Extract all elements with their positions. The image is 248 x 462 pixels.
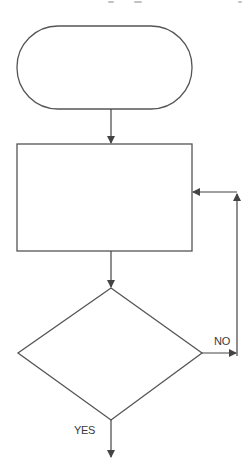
process-node xyxy=(17,144,192,251)
no-branch-label: NO xyxy=(214,335,230,347)
yes-branch-label: YES xyxy=(74,424,95,436)
cropped-text-fragment xyxy=(134,1,142,3)
decision-node xyxy=(18,288,202,420)
terminal-start-node xyxy=(17,26,192,109)
cropped-text-fragment xyxy=(108,1,114,3)
flowchart-canvas xyxy=(0,0,248,462)
cropped-text-fragment xyxy=(238,1,242,3)
